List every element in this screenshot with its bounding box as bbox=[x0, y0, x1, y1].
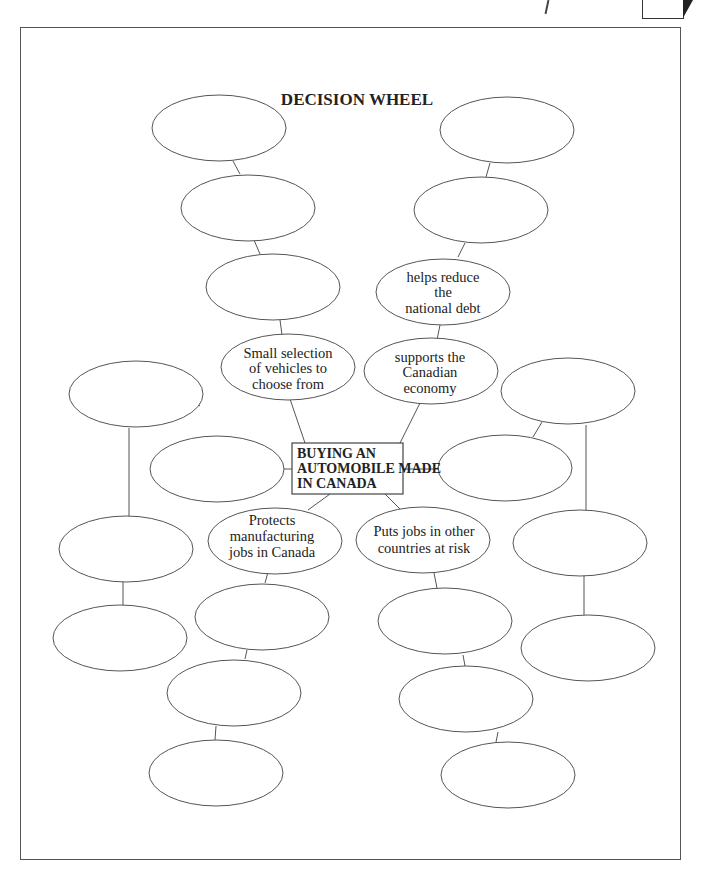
center-text-line: BUYING AN bbox=[297, 446, 376, 461]
node-text-line: Puts jobs in other bbox=[373, 523, 474, 539]
node-upper-left-3: Small selection of vehicles to choose fr… bbox=[221, 334, 355, 400]
node-text-line: national debt bbox=[405, 300, 480, 316]
decision-wheel-diagram: DECISION WHEEL Small selection of vehicl… bbox=[0, 0, 704, 888]
oval-center-right[interactable] bbox=[438, 435, 572, 501]
node-text-line: manufacturing bbox=[230, 528, 315, 544]
oval-lower-left-3[interactable] bbox=[167, 660, 301, 726]
oval-lower-right-2[interactable] bbox=[378, 588, 512, 654]
center-topic-box: BUYING AN AUTOMOBILE MADE IN CANADA bbox=[292, 443, 441, 494]
center-text-line: AUTOMOBILE MADE bbox=[297, 461, 441, 476]
node-text-line: countries at risk bbox=[378, 540, 471, 556]
oval-center-left[interactable] bbox=[150, 436, 284, 502]
oval-lower-right-3[interactable] bbox=[399, 666, 533, 732]
node-text-line: Small selection bbox=[244, 345, 334, 361]
oval-upper-left-top[interactable] bbox=[152, 95, 286, 161]
oval-upper-right-top[interactable] bbox=[440, 97, 574, 163]
node-text-line: supports the bbox=[395, 349, 465, 365]
node-text-line: jobs in Canada bbox=[228, 544, 316, 560]
node-text-line: Protects bbox=[249, 512, 296, 528]
oval-lower-left-2[interactable] bbox=[195, 584, 329, 650]
oval-left-cluster-mid[interactable] bbox=[59, 516, 193, 582]
node-text-line: economy bbox=[403, 380, 457, 396]
node-text-line: choose from bbox=[252, 376, 325, 392]
oval-right-cluster-top[interactable] bbox=[501, 358, 635, 424]
oval-lower-left-4[interactable] bbox=[149, 740, 283, 806]
center-text-line: IN CANADA bbox=[297, 476, 378, 491]
oval-upper-left-1[interactable] bbox=[206, 254, 340, 320]
oval-left-cluster-bottom[interactable] bbox=[53, 605, 187, 671]
diagram-title: DECISION WHEEL bbox=[281, 90, 433, 109]
node-text-line: helps reduce bbox=[407, 269, 480, 285]
node-text-line: of vehicles to bbox=[249, 360, 327, 376]
oval-lower-right-4[interactable] bbox=[441, 742, 575, 808]
oval-right-cluster-mid[interactable] bbox=[513, 510, 647, 576]
node-lower-right-1: Puts jobs in other countries at risk bbox=[356, 507, 490, 573]
oval-left-cluster-top[interactable] bbox=[69, 361, 203, 427]
node-upper-right-2: helps reduce the national debt bbox=[376, 259, 510, 325]
node-lower-left-1: Protects manufacturing jobs in Canada bbox=[208, 508, 342, 574]
oval-upper-right-1[interactable] bbox=[414, 177, 548, 243]
node-upper-right-3: supports the Canadian economy bbox=[364, 338, 498, 404]
node-text-line: the bbox=[434, 284, 452, 300]
oval-upper-left-2[interactable] bbox=[181, 175, 315, 241]
oval-right-cluster-bottom[interactable] bbox=[521, 615, 655, 681]
node-text-line: Canadian bbox=[403, 364, 459, 380]
